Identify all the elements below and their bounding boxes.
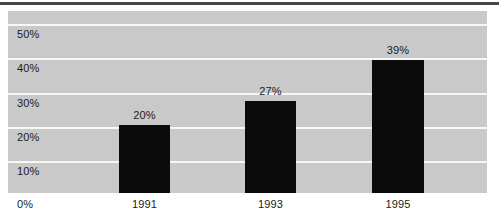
ytick-label-20: 20%: [17, 131, 39, 143]
bar-chart-figure: 50% 40% 30% 20% 10% 20% 27% 39% 0% 1991 …: [0, 0, 501, 220]
bar-value-1993: 27%: [245, 85, 296, 97]
gridline-50: [8, 24, 487, 26]
ytick-label-10: 10%: [17, 165, 39, 177]
bar-1995: [372, 60, 424, 193]
ytick-label-30: 30%: [17, 97, 39, 109]
xtick-label-1991: 1991: [119, 198, 170, 210]
top-rule-divider: [0, 2, 499, 5]
bar-value-1995: 39%: [372, 44, 424, 56]
ytick-label-50: 50%: [17, 28, 39, 40]
bar-value-1991: 20%: [119, 109, 170, 121]
plot-panel: 50% 40% 30% 20% 10% 20% 27% 39%: [8, 11, 487, 193]
xtick-label-1995: 1995: [372, 198, 424, 210]
bar-1991: [119, 125, 170, 193]
xtick-label-1993: 1993: [245, 198, 296, 210]
ytick-label-0: 0%: [17, 198, 33, 210]
bar-1993: [245, 101, 296, 193]
ytick-label-40: 40%: [17, 62, 39, 74]
